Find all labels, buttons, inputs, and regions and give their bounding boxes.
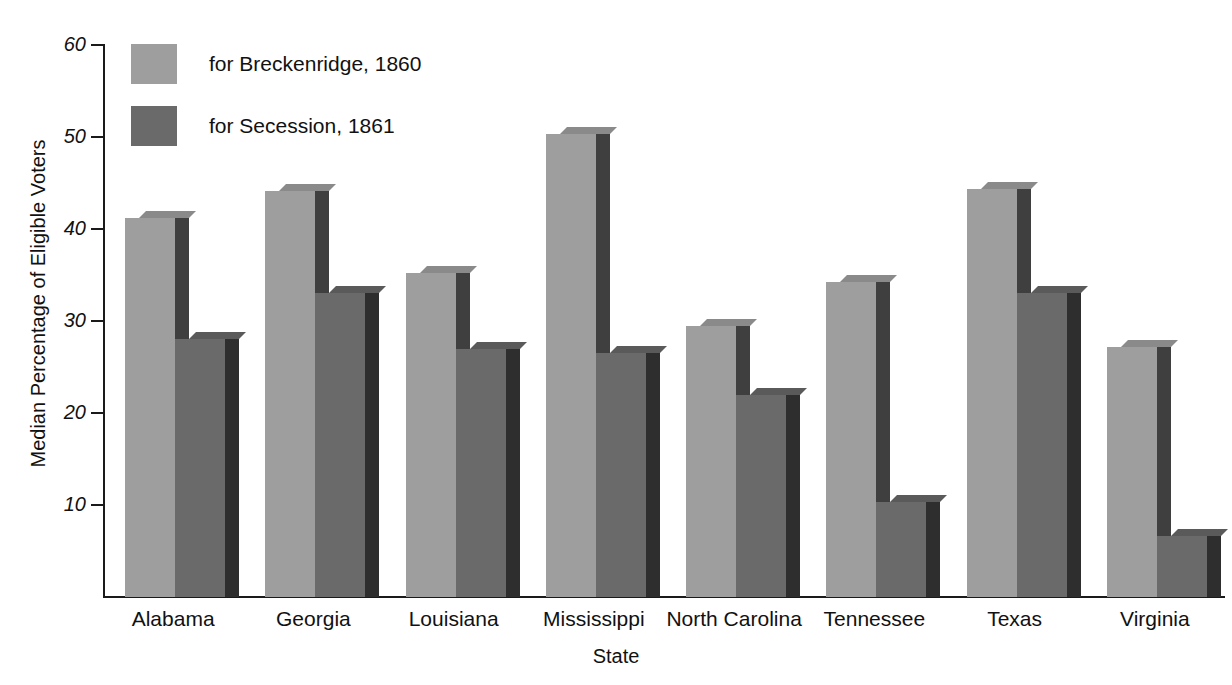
bar-side-face xyxy=(786,395,800,597)
x-axis-title: State xyxy=(0,645,1232,668)
y-tick-10 xyxy=(91,504,105,506)
bar-north-carolina-secession xyxy=(736,381,800,597)
bar-side-face xyxy=(646,353,660,597)
bar-front-face xyxy=(315,293,365,597)
y-tick-label-60: 60 xyxy=(40,34,86,54)
y-tick-50 xyxy=(91,136,105,138)
y-tick-30 xyxy=(91,320,105,322)
bar-front-face xyxy=(125,218,175,597)
legend-swatch-1 xyxy=(131,44,177,84)
y-tick-60 xyxy=(91,44,105,46)
x-tick-label-alabama: Alabama xyxy=(103,607,243,631)
bar-virginia-secession xyxy=(1157,522,1221,597)
bar-tennessee-secession xyxy=(876,488,940,597)
bar-front-face xyxy=(406,273,456,597)
bar-side-face xyxy=(1207,536,1221,597)
legend-swatch-2 xyxy=(131,106,177,146)
bar-front-face xyxy=(456,349,506,597)
x-tick-label-virginia: Virginia xyxy=(1085,607,1225,631)
bar-texas-secession xyxy=(1017,279,1081,597)
bar-front-face xyxy=(1157,536,1207,597)
bar-side-face xyxy=(1067,293,1081,597)
x-tick-label-georgia: Georgia xyxy=(243,607,383,631)
x-tick-label-tennessee: Tennessee xyxy=(804,607,944,631)
bar-front-face xyxy=(546,134,596,597)
y-tick-40 xyxy=(91,228,105,230)
bar-front-face xyxy=(736,395,786,597)
bar-side-face xyxy=(365,293,379,597)
bar-side-face xyxy=(926,502,940,597)
x-tick-label-texas: Texas xyxy=(945,607,1085,631)
bar-front-face xyxy=(1107,347,1157,597)
x-tick-label-north-carolina: North Carolina xyxy=(664,607,804,631)
bar-alabama-secession xyxy=(175,325,239,597)
bar-front-face xyxy=(175,339,225,597)
y-tick-20 xyxy=(91,412,105,414)
bar-front-face xyxy=(826,282,876,597)
bar-side-face xyxy=(506,349,520,597)
bar-mississippi-secession xyxy=(596,339,660,597)
legend-label-2: for Secession, 1861 xyxy=(209,114,395,138)
bar-louisiana-secession xyxy=(456,335,520,597)
bar-georgia-secession xyxy=(315,279,379,597)
y-axis-title: Median Percentage of Eligible Voters xyxy=(27,84,50,524)
bar-front-face xyxy=(1017,293,1067,597)
bar-side-face xyxy=(225,339,239,597)
legend-label-1: for Breckenridge, 1860 xyxy=(209,52,421,76)
bar-front-face xyxy=(686,326,736,597)
bar-front-face xyxy=(265,191,315,597)
bar-front-face xyxy=(596,353,646,597)
bar-chart: 102030405060 Median Percentage of Eligib… xyxy=(0,0,1232,685)
bar-front-face xyxy=(967,189,1017,597)
bar-front-face xyxy=(876,502,926,597)
x-tick-label-mississippi: Mississippi xyxy=(524,607,664,631)
x-tick-label-louisiana: Louisiana xyxy=(384,607,524,631)
